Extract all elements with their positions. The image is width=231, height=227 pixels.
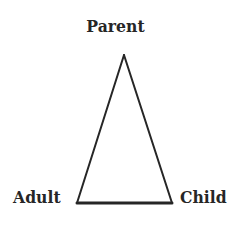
triangle-left-edge: [77, 55, 124, 203]
node-label-adult: Adult: [13, 189, 61, 206]
node-label-parent: Parent: [9, 18, 222, 35]
triangle-right-edge: [124, 55, 172, 203]
node-label-child: Child: [180, 189, 227, 206]
diagram-canvas: Parent Adult Child: [0, 0, 231, 227]
